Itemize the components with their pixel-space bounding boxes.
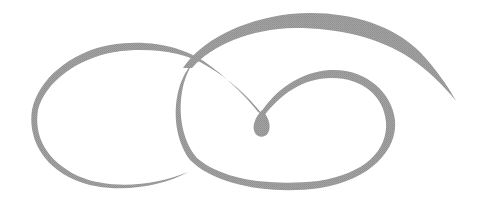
swirl-ornament-canvas (0, 0, 488, 204)
swirl-ornament (0, 0, 488, 204)
left-loop (31, 43, 262, 189)
upper-arc (183, 13, 456, 101)
right-loop (176, 60, 396, 190)
